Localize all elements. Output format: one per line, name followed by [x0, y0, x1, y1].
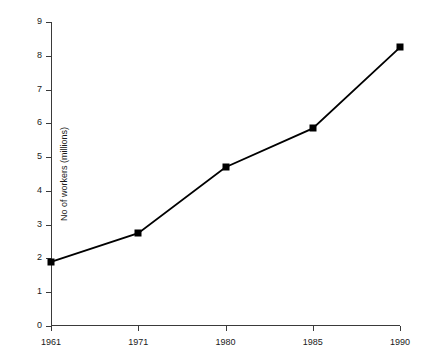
x-tick [138, 326, 139, 331]
y-tick-label: 8 [37, 50, 42, 61]
y-tick-label: 9 [37, 16, 42, 27]
x-tick-label: 1980 [215, 337, 235, 348]
x-tick [400, 326, 401, 331]
x-tick [226, 326, 227, 331]
y-tick-label: 2 [37, 252, 42, 263]
y-tick-label: 1 [37, 286, 42, 297]
y-tick-label: 0 [37, 320, 42, 331]
data-point-marker [135, 230, 142, 237]
x-tick [51, 326, 52, 331]
y-tick-label: 6 [37, 117, 42, 128]
x-tick [313, 326, 314, 331]
chart-title: THE WORLD'S WORKERS [0, 0, 431, 2]
data-point-marker [48, 258, 55, 265]
line-chart-figure: THE WORLD'S WORKERS No of workers (milli… [0, 0, 431, 360]
y-tick-label: 3 [37, 219, 42, 230]
y-tick-label: 5 [37, 151, 42, 162]
data-point-marker [309, 125, 316, 132]
x-tick-label: 1961 [41, 337, 61, 348]
x-tick-label: 1990 [390, 337, 410, 348]
x-tick-label: 1985 [303, 337, 323, 348]
y-tick-label: 4 [37, 185, 42, 196]
series-line [51, 22, 400, 326]
data-point-marker [397, 44, 404, 51]
data-point-marker [222, 164, 229, 171]
y-tick-label: 7 [37, 84, 42, 95]
x-tick-label: 1971 [128, 337, 148, 348]
plot-area: No of workers (millions) 0123456789 1961… [51, 22, 400, 326]
series-polyline [51, 47, 400, 261]
